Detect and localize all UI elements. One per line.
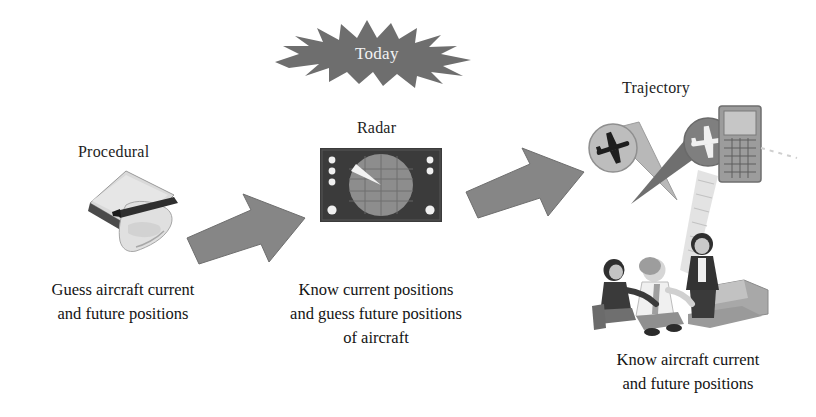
caption-line: and guess future positions bbox=[248, 302, 504, 326]
caption-line: of aircraft bbox=[248, 326, 504, 350]
caption-trajectory: Know aircraft current and future positio… bbox=[560, 348, 816, 396]
stage-label-radar: Radar bbox=[357, 118, 396, 138]
arrow-right-icon bbox=[183, 182, 313, 266]
controllers-scene-icon bbox=[592, 228, 778, 340]
today-banner: Today bbox=[275, 18, 475, 90]
caption-line: Guess aircraft current bbox=[8, 278, 238, 302]
arrow-procedural-to-radar bbox=[183, 182, 313, 266]
caption-line: Know current positions bbox=[248, 278, 504, 302]
caption-procedural: Guess aircraft current and future positi… bbox=[8, 278, 238, 326]
caption-line: and future positions bbox=[8, 302, 238, 326]
radar-icon bbox=[320, 148, 442, 222]
radar-scope-icon bbox=[320, 148, 442, 222]
caption-line: and future positions bbox=[560, 372, 816, 396]
procedural-icon bbox=[78, 165, 188, 265]
caption-radar: Know current positions and guess future … bbox=[248, 278, 504, 350]
caption-line: Know aircraft current bbox=[560, 348, 816, 372]
air-traffic-controllers-icon bbox=[592, 228, 778, 340]
stage-label-procedural: Procedural bbox=[78, 142, 149, 162]
diagram-canvas: Today Procedural Guess aircraft current … bbox=[0, 0, 816, 417]
hand-writing-on-paper-icon bbox=[78, 165, 188, 265]
stage-label-trajectory: Trajectory bbox=[622, 78, 690, 98]
today-banner-label: Today bbox=[355, 44, 399, 64]
